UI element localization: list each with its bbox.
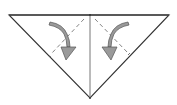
bottom-apex-dot — [89, 97, 91, 99]
top-center-dot — [89, 14, 91, 16]
diagram-canvas — [0, 0, 177, 105]
origami-diagram: Triangle with center crease; fold both u… — [0, 0, 177, 105]
triangle-outline — [9, 15, 169, 98]
